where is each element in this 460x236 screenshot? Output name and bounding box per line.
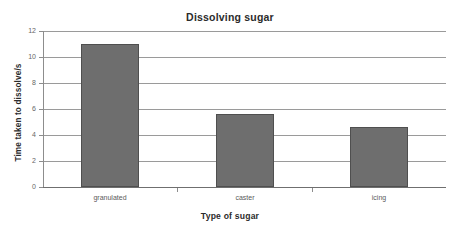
x-tick-label: icing: [334, 194, 424, 201]
y-tick-mark: [39, 83, 43, 84]
chart-title: Dissolving sugar: [0, 11, 460, 23]
x-tick-label: granulated: [65, 194, 155, 201]
y-tick-mark: [39, 161, 43, 162]
bar: [350, 127, 408, 187]
y-axis-line: [43, 31, 44, 188]
x-tick-mark: [177, 188, 178, 192]
y-tick-mark: [39, 57, 43, 58]
y-tick-label: 4: [18, 131, 36, 138]
gridline: [43, 31, 446, 32]
y-tick-label: 2: [18, 157, 36, 164]
x-axis-title: Type of sugar: [0, 211, 460, 221]
x-axis-line: [43, 187, 446, 188]
y-tick-label: 0: [18, 183, 36, 190]
x-tick-label: caster: [200, 194, 290, 201]
y-tick-mark: [39, 109, 43, 110]
y-tick-label: 6: [18, 105, 36, 112]
y-tick-label: 12: [18, 27, 36, 34]
y-tick-mark: [39, 187, 43, 188]
y-tick-mark: [39, 31, 43, 32]
plot-area: [43, 31, 446, 187]
y-tick-label: 10: [18, 53, 36, 60]
x-tick-mark: [312, 188, 313, 192]
bar: [216, 114, 274, 187]
y-tick-mark: [39, 135, 43, 136]
y-tick-label: 8: [18, 79, 36, 86]
bar-chart: Dissolving sugar Time taken to dissolve/…: [0, 0, 460, 236]
bar: [81, 44, 139, 187]
